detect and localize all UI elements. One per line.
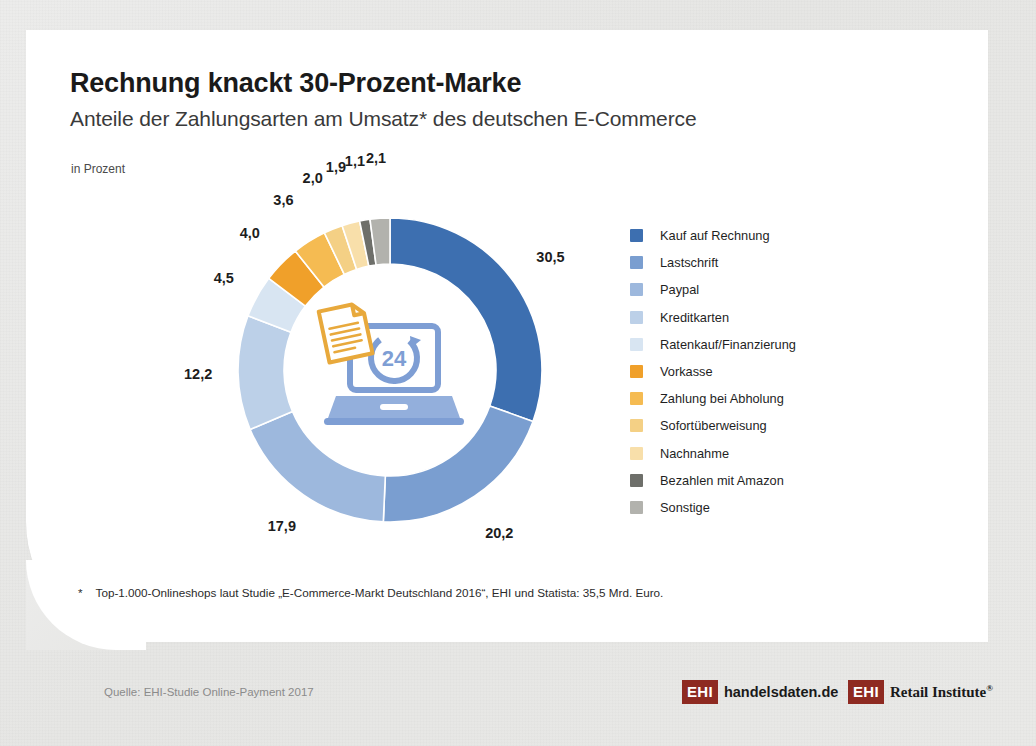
logo-retail-institute: EHI Retail Institute® xyxy=(848,680,993,704)
donut-value-label: 17,9 xyxy=(268,518,296,534)
footnote: *Top-1.000-Onlineshops laut Studie „E-Co… xyxy=(78,586,663,599)
legend-swatch-icon xyxy=(630,419,643,432)
donut-value-label: 1,9 xyxy=(326,159,346,175)
donut-chart: 24 xyxy=(232,212,548,528)
legend-swatch-icon xyxy=(630,283,643,296)
legend-swatch-icon xyxy=(630,365,643,378)
donut-value-label: 2,0 xyxy=(303,170,323,186)
donut-value-label: 4,0 xyxy=(240,225,260,241)
donut-value-label: 20,2 xyxy=(485,525,513,541)
source-text: Quelle: EHI-Studie Online-Payment 2017 xyxy=(104,686,314,698)
registered-mark-icon: ® xyxy=(986,683,993,693)
donut-value-label: 4,5 xyxy=(214,270,234,286)
legend-label: Sonstige xyxy=(660,500,710,515)
donut-value-label: 12,2 xyxy=(184,366,212,382)
legend-label: Vorkasse xyxy=(660,364,713,379)
page-subtitle: Anteile der Zahlungsarten am Umsatz* des… xyxy=(70,107,697,131)
ehi-badge-icon: EHI xyxy=(682,680,718,704)
legend-item[interactable]: Sonstige xyxy=(630,494,890,521)
donut-segment xyxy=(238,316,292,430)
logo-retail-institute-label: Retail Institute® xyxy=(890,683,993,701)
legend-label: Nachnahme xyxy=(660,446,729,461)
donut-value-label: 2,1 xyxy=(366,150,386,166)
card-corner-notch xyxy=(26,560,146,650)
legend-item[interactable]: Kauf auf Rechnung xyxy=(630,222,890,249)
legend-item[interactable]: Ratenkauf/Finanzierung xyxy=(630,331,890,358)
legend-label: Ratenkauf/Finanzierung xyxy=(660,337,796,352)
legend-item[interactable]: Zahlung bei Abholung xyxy=(630,385,890,412)
legend-swatch-icon xyxy=(630,501,643,514)
legend-label: Kauf auf Rechnung xyxy=(660,228,770,243)
legend-swatch-icon xyxy=(630,338,643,351)
legend-swatch-icon xyxy=(630,311,643,324)
legend-label: Kreditkarten xyxy=(660,310,729,325)
legend-item[interactable]: Kreditkarten xyxy=(630,304,890,331)
legend-swatch-icon xyxy=(630,474,643,487)
legend-label: Paypal xyxy=(660,282,699,297)
legend-item[interactable]: Bezahlen mit Amazon xyxy=(630,467,890,494)
chart-legend: Kauf auf RechnungLastschriftPaypalKredit… xyxy=(630,222,890,521)
unit-label: in Prozent xyxy=(71,162,125,176)
svg-text:24: 24 xyxy=(382,346,407,371)
footnote-asterisk: * xyxy=(78,586,83,599)
logo-handelsdaten-label: handelsdaten.de xyxy=(724,684,838,700)
footnote-text: Top-1.000-Onlineshops laut Studie „E-Com… xyxy=(96,586,664,599)
ehi-badge-icon: EHI xyxy=(848,680,884,704)
infographic-page: Rechnung knackt 30-Prozent-Marke Anteile… xyxy=(0,0,1036,746)
legend-swatch-icon xyxy=(630,447,643,460)
page-title: Rechnung knackt 30-Prozent-Marke xyxy=(70,68,521,99)
donut-value-label: 30,5 xyxy=(536,249,564,265)
legend-swatch-icon xyxy=(630,392,643,405)
legend-swatch-icon xyxy=(630,229,643,242)
legend-item[interactable]: Paypal xyxy=(630,276,890,303)
laptop-invoice-24h-icon: 24 xyxy=(310,296,470,441)
legend-label: Lastschrift xyxy=(660,255,718,270)
legend-item[interactable]: Sofortüberweisung xyxy=(630,412,890,439)
legend-label: Zahlung bei Abholung xyxy=(660,391,784,406)
legend-label: Sofortüberweisung xyxy=(660,418,767,433)
legend-item[interactable]: Nachnahme xyxy=(630,440,890,467)
donut-value-label: 1,1 xyxy=(345,153,365,169)
legend-swatch-icon xyxy=(630,256,643,269)
logo-handelsdaten: EHI handelsdaten.de xyxy=(682,680,838,704)
donut-value-label: 3,6 xyxy=(273,192,293,208)
legend-label: Bezahlen mit Amazon xyxy=(660,473,784,488)
legend-item[interactable]: Lastschrift xyxy=(630,249,890,276)
legend-item[interactable]: Vorkasse xyxy=(630,358,890,385)
